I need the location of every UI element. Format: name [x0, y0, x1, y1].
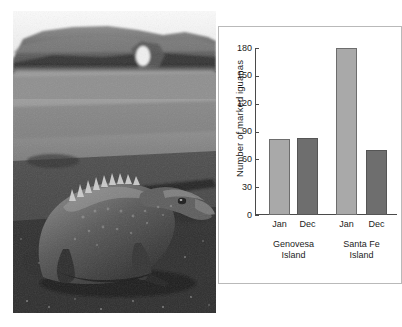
x-axis-category-label: Jan	[265, 219, 295, 229]
bar-group	[256, 48, 397, 215]
bar-genovesa-island-jan	[269, 139, 290, 215]
bar-santa-fe-island-dec	[366, 150, 387, 215]
y-axis-tick-label: 180	[226, 44, 252, 53]
bar-genovesa-island-dec	[297, 138, 318, 215]
x-axis-category-label: Dec	[293, 219, 323, 229]
marine-iguana-photo	[13, 11, 216, 313]
y-axis-tick-label: 150	[226, 71, 252, 80]
y-axis-tick-label: 30	[226, 183, 252, 192]
y-axis-tick	[255, 215, 259, 216]
y-axis-tick-label: 120	[226, 99, 252, 108]
y-axis-tick-label: 90	[226, 127, 252, 136]
y-axis-tick-label: 60	[226, 155, 252, 164]
plot-area: Number of marked iguanas 030609012015018…	[219, 27, 401, 283]
y-axis-tick-label: 0	[226, 211, 252, 220]
x-axis-category-label: Dec	[362, 219, 392, 229]
y-axis-title: Number of marked iguanas	[234, 39, 245, 199]
bar-chart-panel: Number of marked iguanas 030609012015018…	[218, 26, 402, 284]
bar-santa-fe-island-jan	[336, 48, 357, 215]
x-axis-group-label: Santa Fe Island	[327, 239, 397, 261]
x-axis-group-label: Genovesa Island	[259, 239, 329, 261]
x-axis-category-label: Jan	[332, 219, 362, 229]
photo-illustration	[13, 11, 216, 313]
